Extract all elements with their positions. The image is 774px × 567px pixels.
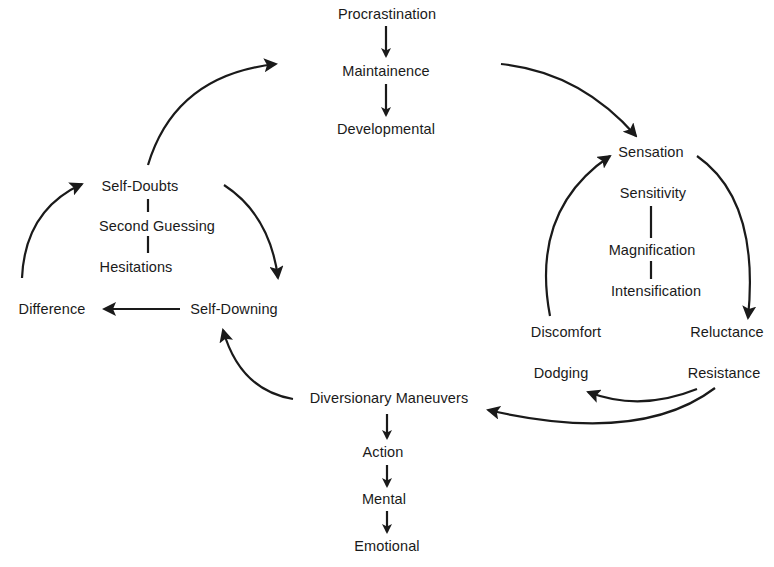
node-reluctance: Reluctance xyxy=(690,323,764,341)
node-magnification: Magnification xyxy=(609,241,696,259)
node-self-downing: Self-Downing xyxy=(190,300,277,318)
node-resistance: Resistance xyxy=(688,364,761,382)
node-emotional: Emotional xyxy=(354,537,419,555)
arrow-self-doubts-to-maintainence xyxy=(148,64,276,165)
node-self-doubts: Self-Doubts xyxy=(102,177,179,195)
arrow-sensation-to-reluctance xyxy=(697,156,750,318)
node-difference: Difference xyxy=(19,300,86,318)
arrow-resistance-to-diversionary-maneuvers xyxy=(488,388,715,423)
procrastination-cycle-diagram: Procrastination Maintainence Development… xyxy=(0,0,774,567)
node-developmental: Developmental xyxy=(337,120,435,138)
node-procrastination: Procrastination xyxy=(338,5,436,23)
node-action: Action xyxy=(363,443,404,461)
node-mental: Mental xyxy=(362,490,406,508)
node-maintainence: Maintainence xyxy=(342,62,429,80)
node-sensation: Sensation xyxy=(618,143,683,161)
node-intensification: Intensification xyxy=(611,282,701,300)
node-second-guessing: Second Guessing xyxy=(99,217,215,235)
arrow-resistance-to-dodging xyxy=(588,389,697,401)
node-hesitations: Hesitations xyxy=(100,258,173,276)
arrow-self-doubts-to-self-downing xyxy=(224,185,278,278)
node-diversionary-maneuvers: Diversionary Maneuvers xyxy=(310,389,469,407)
arrow-maintainence-to-sensation xyxy=(501,64,636,136)
node-sensitivity: Sensitivity xyxy=(620,184,686,202)
arrow-discomfort-to-sensation xyxy=(546,156,610,316)
arrow-difference-to-self-doubts xyxy=(22,184,82,278)
node-discomfort: Discomfort xyxy=(531,323,601,341)
arrow-diversionary-to-self-downing xyxy=(223,330,293,399)
node-dodging: Dodging xyxy=(534,364,589,382)
